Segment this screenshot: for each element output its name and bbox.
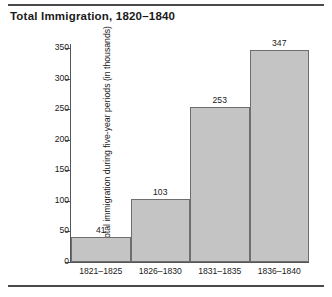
x-axis-line (70, 262, 309, 263)
bar[interactable] (131, 199, 191, 262)
bar[interactable] (71, 237, 131, 262)
y-tick-label: 200 (55, 134, 69, 144)
y-tick-label: 350 (55, 42, 69, 52)
x-axis-labels: 1821–18251826–18301831–18351836–1840 (71, 266, 309, 280)
bar-series: 41103253347 (71, 48, 309, 262)
y-tick-label: 0 (64, 256, 69, 266)
bar-value-label: 41 (71, 225, 131, 235)
bar[interactable] (250, 50, 310, 262)
bar-value-label: 347 (250, 38, 310, 48)
bar-slot: 253 (190, 48, 250, 262)
bar-slot: 347 (250, 48, 310, 262)
y-tick-label: 300 (55, 73, 69, 83)
y-tick-label: 50 (59, 225, 69, 235)
bottom-rule (8, 285, 324, 287)
x-axis-category-label: 1831–1835 (190, 266, 250, 276)
bar-value-label: 103 (131, 187, 191, 197)
x-axis-category-label: 1836–1840 (250, 266, 310, 276)
bar-value-label: 253 (190, 95, 250, 105)
y-tick-label: 150 (55, 164, 69, 174)
chart-figure: Total Immigration, 1820–1840 Total immig… (0, 0, 332, 297)
bar[interactable] (190, 107, 250, 262)
x-axis-category-label: 1826–1830 (131, 266, 191, 276)
y-tick-label: 100 (55, 195, 69, 205)
plot-area: Total immigration during five-year perio… (70, 48, 310, 262)
y-tick-label: 250 (55, 103, 69, 113)
x-axis-category-label: 1821–1825 (71, 266, 131, 276)
top-rule (8, 4, 324, 6)
chart-title: Total Immigration, 1820–1840 (10, 10, 175, 22)
bar-slot: 103 (131, 48, 191, 262)
bar-slot: 41 (71, 48, 131, 262)
